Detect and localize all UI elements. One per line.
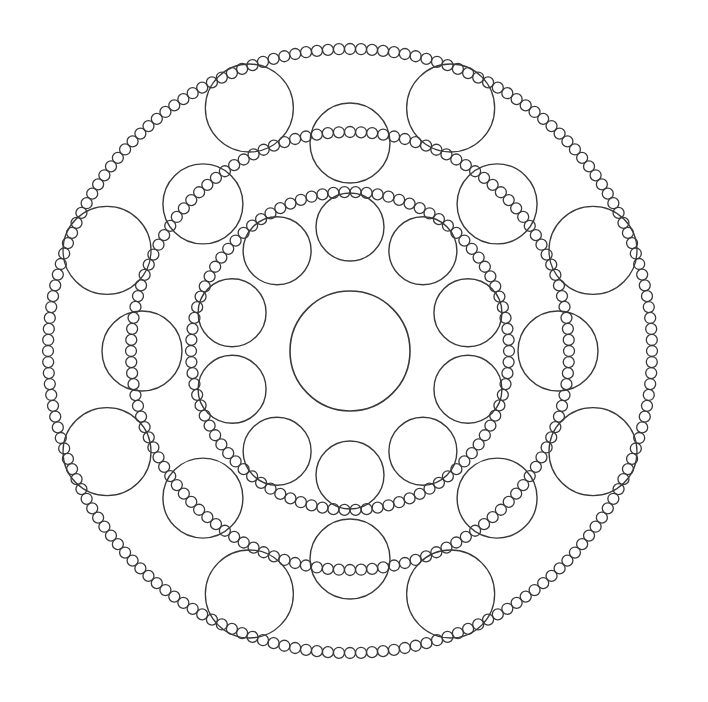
bead	[557, 291, 568, 302]
outer-circle-ring	[63, 64, 637, 638]
bead	[372, 502, 383, 513]
inner-circle	[316, 441, 384, 509]
bead	[322, 563, 333, 574]
bead	[311, 562, 322, 573]
outer-circle	[407, 64, 495, 152]
bead	[563, 357, 574, 368]
inner-circle-ring	[198, 193, 502, 509]
bead	[490, 281, 501, 292]
bead	[643, 389, 654, 400]
bead	[367, 647, 378, 658]
bead	[356, 44, 367, 55]
bead	[345, 565, 356, 576]
bead	[317, 502, 328, 513]
middle-circle	[518, 311, 598, 391]
inner-circle	[243, 217, 311, 285]
bead	[639, 411, 650, 422]
bead	[562, 368, 573, 379]
bead	[345, 44, 356, 55]
bead	[306, 500, 317, 511]
outer-circle	[63, 206, 151, 294]
bead	[322, 647, 333, 658]
bead	[295, 194, 306, 205]
bead	[646, 357, 657, 368]
bead	[268, 53, 279, 64]
bead	[186, 334, 197, 345]
bead	[186, 357, 197, 368]
bead	[192, 389, 203, 400]
bead	[502, 323, 513, 334]
bead	[646, 368, 657, 379]
bead	[646, 323, 657, 334]
bead	[641, 291, 652, 302]
bead	[356, 647, 367, 658]
bead	[503, 334, 514, 345]
bead	[399, 642, 410, 653]
bead	[356, 127, 367, 138]
bead	[199, 281, 210, 292]
inner-circle	[243, 417, 311, 485]
bead	[645, 312, 656, 323]
bead	[279, 51, 290, 62]
bead	[339, 187, 350, 198]
bead	[132, 291, 143, 302]
middle-circle	[163, 458, 243, 538]
bead	[356, 564, 367, 575]
bead	[367, 44, 378, 55]
bead	[132, 400, 143, 411]
bead	[490, 410, 501, 421]
bead	[333, 127, 344, 138]
bead	[275, 203, 286, 214]
bead	[50, 411, 61, 422]
bead	[127, 323, 138, 334]
inner-bead-ring	[186, 187, 515, 516]
bead	[383, 500, 394, 511]
bead	[127, 368, 138, 379]
bead	[399, 133, 410, 144]
bead	[350, 187, 361, 198]
bead	[333, 44, 344, 55]
bead	[421, 638, 432, 649]
bead	[43, 368, 54, 379]
bead	[404, 198, 415, 209]
bead	[290, 558, 301, 569]
bead	[52, 269, 63, 280]
bead	[311, 45, 322, 56]
bead	[44, 312, 55, 323]
bead	[485, 271, 496, 282]
bead	[378, 646, 389, 657]
bead	[388, 47, 399, 58]
bead	[126, 357, 137, 368]
bead	[46, 389, 57, 400]
bead	[43, 357, 54, 368]
bead	[367, 128, 378, 139]
bead	[378, 562, 389, 573]
bead	[388, 644, 399, 655]
bead	[350, 504, 361, 515]
bead	[301, 644, 312, 655]
bead	[394, 497, 405, 508]
bead	[372, 189, 383, 200]
bead	[322, 44, 333, 55]
bead	[317, 189, 328, 200]
mandala-artwork	[0, 0, 708, 702]
bead	[46, 302, 57, 313]
bead	[48, 400, 59, 411]
bead	[399, 49, 410, 60]
bead	[43, 334, 54, 345]
bead	[404, 493, 415, 504]
outer-bead-ring	[43, 44, 658, 659]
bead	[306, 191, 317, 202]
outer-circle	[205, 64, 293, 152]
middle-circle	[457, 164, 537, 244]
bead	[285, 493, 296, 504]
bead	[322, 128, 333, 139]
bead	[295, 497, 306, 508]
bead	[248, 149, 259, 160]
bead	[290, 642, 301, 653]
bead	[367, 563, 378, 574]
bead	[345, 648, 356, 659]
bead-rings	[43, 44, 658, 659]
bead	[557, 400, 568, 411]
bead	[204, 420, 215, 431]
